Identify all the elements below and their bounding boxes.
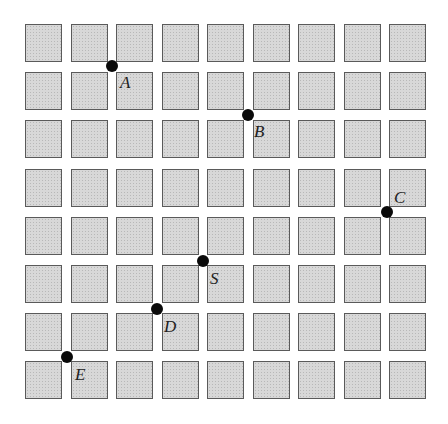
grid-square [71,265,108,303]
grid-square [116,217,153,255]
grid-square [207,313,244,351]
point-e-dot [61,351,73,363]
grid-square [116,24,153,62]
grid-square [207,169,244,207]
grid-square [71,24,108,62]
point-c-dot [381,206,393,218]
grid-square [253,313,290,351]
grid-square [298,217,335,255]
grid-square [71,217,108,255]
grid-square [389,265,426,303]
grid-square [344,217,381,255]
grid-square [389,361,426,399]
grid-square [25,120,62,158]
point-d-dot [151,303,163,315]
grid-square [162,169,199,207]
point-s-dot [197,255,209,267]
grid-square [389,24,426,62]
grid-square [344,265,381,303]
grid-square [298,120,335,158]
grid-square [389,313,426,351]
point-s-label: S [210,270,219,287]
grid-square [162,24,199,62]
grid-square [116,313,153,351]
grid-square [25,72,62,110]
point-c-label: C [394,189,405,206]
grid-square [253,72,290,110]
grid-square [25,24,62,62]
point-a-dot [106,60,118,72]
grid-square [344,120,381,158]
grid-square [25,361,62,399]
grid-square [298,72,335,110]
point-b-label: B [254,123,264,140]
grid-square [207,361,244,399]
point-d-label: D [164,318,176,335]
grid-square [298,169,335,207]
grid-square [162,120,199,158]
grid-square [25,313,62,351]
grid-square [389,120,426,158]
grid-square [253,24,290,62]
point-b-dot [242,109,254,121]
grid-square [253,217,290,255]
grid-square [344,169,381,207]
grid-square [344,24,381,62]
grid-square [389,72,426,110]
grid-square [25,217,62,255]
grid-square [116,265,153,303]
grid-square [71,169,108,207]
grid-square [71,72,108,110]
grid-square [344,313,381,351]
grid-square [162,265,199,303]
grid-square [25,169,62,207]
grid-square [71,120,108,158]
grid-square [344,361,381,399]
grid-square [207,217,244,255]
grid-square [116,169,153,207]
grid-square [162,72,199,110]
grid-square [298,24,335,62]
grid-square [25,265,62,303]
grid-square [207,24,244,62]
grid-square [71,313,108,351]
grid-square [162,217,199,255]
point-e-label: E [75,366,85,383]
grid-square [116,120,153,158]
grid-square [389,217,426,255]
grid-square [253,169,290,207]
grid-square [253,265,290,303]
grid-square [207,120,244,158]
grid-square [298,361,335,399]
grid-square [298,265,335,303]
grid-square [253,361,290,399]
grid-square [162,361,199,399]
grid-square [116,361,153,399]
point-a-label: A [120,74,130,91]
grid-square [207,72,244,110]
grid-square [298,313,335,351]
grid-square [344,72,381,110]
